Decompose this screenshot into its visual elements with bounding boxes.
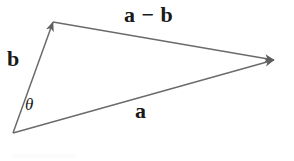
angle-theta-label: θ (25, 96, 33, 113)
vector-b-label: b (7, 48, 19, 70)
vector-a-minus-b-arrow (53, 22, 274, 60)
vector-b-arrow (13, 22, 53, 133)
vector-a-label: a (135, 100, 146, 122)
vector-diagram-figure: a − b a b θ (0, 0, 294, 161)
vector-a-minus-b-label: a − b (124, 4, 173, 26)
page-scan-artifact (12, 154, 76, 158)
